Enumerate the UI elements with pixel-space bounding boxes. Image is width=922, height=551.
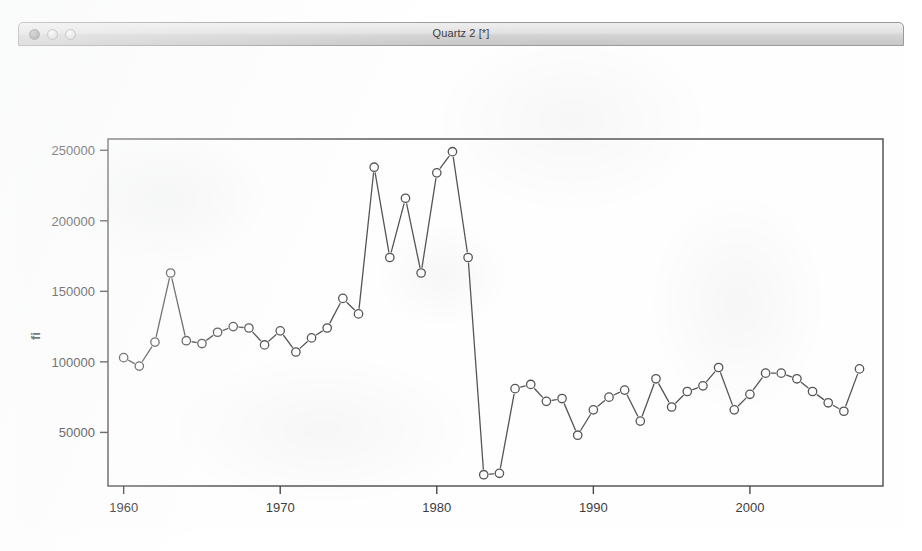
data-point (323, 324, 331, 332)
data-point (480, 471, 488, 479)
x-tick-label: 1960 (109, 500, 138, 515)
data-point (777, 369, 785, 377)
data-point (699, 382, 707, 390)
data-point (620, 386, 628, 394)
data-point (652, 375, 660, 383)
data-series-line (129, 156, 858, 474)
data-point (808, 387, 816, 395)
data-point (589, 406, 597, 414)
data-point (495, 469, 503, 477)
scatter-line-plot: 19601970198019902000 5000010000015000020… (18, 46, 904, 530)
data-point (793, 375, 801, 383)
data-point (558, 394, 566, 402)
data-point (354, 310, 362, 318)
data-point (573, 431, 581, 439)
y-tick-label: 250000 (52, 143, 95, 158)
x-tick-label: 1990 (579, 500, 608, 515)
data-point (605, 393, 613, 401)
data-point (135, 362, 143, 370)
data-point (527, 380, 535, 388)
window-title: Quartz 2 [*] (19, 27, 903, 39)
data-point (746, 390, 754, 398)
data-point (260, 341, 268, 349)
data-point (276, 327, 284, 335)
data-point (855, 365, 863, 373)
data-point (824, 399, 832, 407)
data-point (730, 406, 738, 414)
data-point (761, 369, 769, 377)
data-point (370, 163, 378, 171)
data-point (229, 322, 237, 330)
x-tick-label: 1980 (422, 500, 451, 515)
data-point (714, 363, 722, 371)
data-point (292, 348, 300, 356)
data-point (667, 403, 675, 411)
data-point (119, 353, 127, 361)
y-axis-ticks (100, 150, 108, 432)
x-tick-label: 2000 (735, 500, 764, 515)
data-point (840, 407, 848, 415)
window-titlebar[interactable]: Quartz 2 [*] (18, 22, 904, 46)
data-point (213, 328, 221, 336)
x-axis-ticks (124, 486, 750, 494)
data-point (166, 269, 174, 277)
data-point (307, 334, 315, 342)
y-axis-title: fi (28, 332, 43, 340)
data-point (511, 384, 519, 392)
y-tick-label: 200000 (52, 214, 95, 229)
y-tick-label: 50000 (59, 425, 95, 440)
data-point (151, 338, 159, 346)
data-point (417, 269, 425, 277)
data-point (245, 324, 253, 332)
y-tick-label: 100000 (52, 355, 95, 370)
data-point (464, 253, 472, 261)
plot-canvas: 19601970198019902000 5000010000015000020… (18, 46, 904, 530)
data-series-points (119, 147, 863, 478)
data-point (339, 294, 347, 302)
data-point (683, 387, 691, 395)
data-point (182, 337, 190, 345)
data-point (386, 253, 394, 261)
data-point (636, 417, 644, 425)
y-axis-tick-labels: 50000100000150000200000250000 (52, 143, 95, 440)
data-point (448, 147, 456, 155)
quartz-window: Quartz 2 [*] 19601970198019902000 500001… (18, 22, 904, 530)
window-content: 19601970198019902000 5000010000015000020… (18, 46, 904, 530)
data-point (542, 397, 550, 405)
plot-frame (108, 139, 883, 486)
data-point (401, 194, 409, 202)
data-point (433, 169, 441, 177)
data-point (198, 339, 206, 347)
y-tick-label: 150000 (52, 284, 95, 299)
x-axis-tick-labels: 19601970198019902000 (109, 500, 764, 515)
x-tick-label: 1970 (266, 500, 295, 515)
